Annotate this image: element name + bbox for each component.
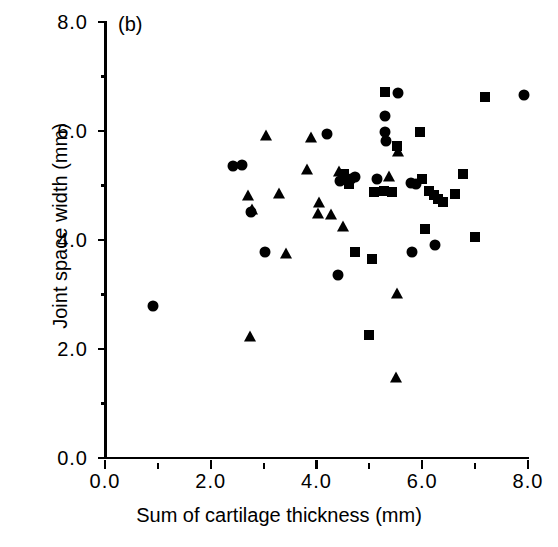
data-point-triangle: [242, 189, 254, 200]
x-tick-minor: [157, 463, 159, 469]
y-axis-title: Joint space width (mm): [50, 16, 70, 436]
data-point-circle: [147, 301, 158, 312]
data-point-square: [450, 189, 460, 199]
data-point-circle: [381, 135, 392, 146]
data-point-triangle: [391, 287, 403, 298]
data-point-triangle: [313, 196, 325, 207]
x-tick-minor: [263, 463, 265, 469]
x-tick-label: 0.0: [90, 471, 121, 491]
data-point-circle: [406, 246, 417, 257]
data-point-square: [458, 169, 468, 179]
data-point-circle: [372, 173, 383, 184]
data-point-square: [387, 187, 397, 197]
x-axis-ticks: 0.02.04.06.08.0: [105, 459, 528, 469]
data-point-triangle: [305, 132, 317, 143]
x-tick-minor: [474, 463, 476, 469]
data-point-square: [344, 179, 354, 189]
data-point-square: [350, 247, 360, 257]
x-tick-major: [315, 460, 317, 469]
data-point-square: [480, 92, 490, 102]
y-tick-label: 0.0: [57, 448, 88, 468]
data-point-square: [415, 127, 425, 137]
data-point-triangle: [273, 188, 285, 199]
data-point-square: [380, 87, 390, 97]
data-point-triangle: [383, 170, 395, 181]
data-point-square: [367, 254, 377, 264]
data-point-square: [369, 187, 379, 197]
x-axis-title: Sum of cartilage thickness (mm): [0, 505, 558, 525]
data-point-triangle: [390, 372, 402, 383]
x-tick-major: [210, 460, 212, 469]
data-point-square: [420, 224, 430, 234]
data-point-circle: [259, 246, 270, 257]
data-point-square: [470, 232, 480, 242]
data-point-triangle: [260, 129, 272, 140]
data-point-triangle: [337, 220, 349, 231]
data-point-circle: [393, 87, 404, 98]
data-point-circle: [332, 270, 343, 281]
scatter-plot-figure: 0.02.04.06.08.0 0.02.04.06.08.0 (b) Sum …: [0, 0, 558, 547]
data-point-square: [417, 174, 427, 184]
data-point-circle: [380, 110, 391, 121]
data-point-circle: [237, 159, 248, 170]
x-tick-label: 2.0: [195, 471, 226, 491]
data-point-triangle: [392, 146, 404, 157]
x-tick-major: [527, 460, 529, 469]
x-tick-label: 4.0: [301, 471, 332, 491]
data-point-triangle: [244, 331, 256, 342]
data-point-square: [364, 330, 374, 340]
data-point-triangle: [333, 166, 345, 177]
panel-label: (b): [118, 14, 142, 34]
data-point-circle: [322, 128, 333, 139]
data-point-triangle: [246, 204, 258, 215]
data-point-circle: [518, 90, 529, 101]
data-point-triangle: [301, 164, 313, 175]
x-tick-minor: [368, 463, 370, 469]
x-tick-major: [421, 460, 423, 469]
x-tick-label: 6.0: [407, 471, 438, 491]
data-point-triangle: [325, 208, 337, 219]
data-point-circle: [430, 240, 441, 251]
x-tick-label: 8.0: [513, 471, 544, 491]
data-point-square: [438, 197, 448, 207]
x-tick-major: [104, 460, 106, 469]
data-point-triangle: [312, 207, 324, 218]
data-point-triangle: [280, 247, 292, 258]
plot-data-area: [105, 22, 528, 458]
